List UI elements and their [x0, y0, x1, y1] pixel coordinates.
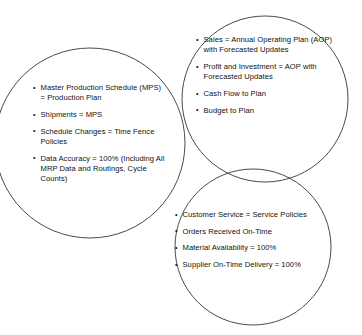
- list-item: Schedule Changes = Time Fence Policies: [33, 127, 165, 148]
- customer-items-list: Customer Service = Service Policies Orde…: [175, 210, 343, 270]
- list-item: Profit and Investment = AOP with Forecas…: [196, 62, 344, 83]
- list-item: Orders Received On-Time: [175, 227, 343, 237]
- venn-diagram-canvas: Master Production Schedule (MPS) = Produ…: [0, 0, 362, 335]
- list-item: Cash Flow to Plan: [196, 89, 344, 99]
- list-item: Budget to Plan: [196, 106, 344, 116]
- list-item: Data Accuracy = 100% (Including All MRP …: [33, 154, 165, 185]
- list-item: Sales = Annual Operating Plan (AOP) with…: [196, 35, 344, 56]
- list-item: Supplier On-Time Delivery = 100%: [175, 260, 343, 270]
- financial-items-list: Sales = Annual Operating Plan (AOP) with…: [196, 35, 344, 116]
- list-item: Shipments = MPS: [33, 110, 165, 120]
- list-item: Material Availability = 100%: [175, 243, 343, 253]
- production-items-list: Master Production Schedule (MPS) = Produ…: [33, 83, 165, 185]
- list-item: Master Production Schedule (MPS) = Produ…: [33, 83, 165, 104]
- list-item: Customer Service = Service Policies: [175, 210, 343, 220]
